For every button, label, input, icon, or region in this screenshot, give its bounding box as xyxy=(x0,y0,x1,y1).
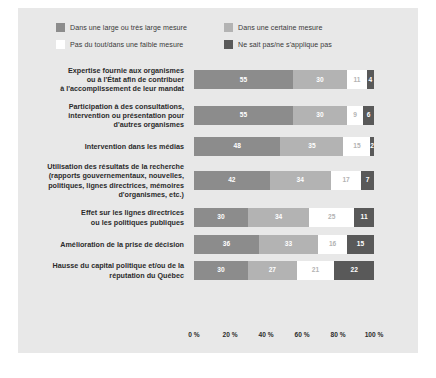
chart-row-label-line: d'autres organismes xyxy=(114,120,184,129)
chart-row-label-line: intervention ou présentation pour xyxy=(68,111,184,120)
bar-segment[interactable]: 30 xyxy=(293,70,347,89)
bar-segment-value: 42 xyxy=(228,177,235,184)
bar-segment-value: 7 xyxy=(366,177,370,184)
bar-segment-value: 30 xyxy=(316,112,323,119)
legend-swatch-icon xyxy=(56,23,65,32)
chart-row-label: Participation à des consultations,interv… xyxy=(18,102,194,130)
chart-row: Expertise fournie aux organismesou à l'É… xyxy=(18,66,418,94)
chart-row-label: Utilisation des résultats de la recherch… xyxy=(18,162,194,199)
legend-swatch-icon xyxy=(224,23,233,32)
legend-item-dans-une-large-ou-tres-large-mesure[interactable]: Dans une large ou très large mesure xyxy=(56,23,224,32)
x-axis-tick-label: 100 % xyxy=(365,331,384,338)
bar-segment[interactable]: 30 xyxy=(293,106,347,125)
bar-segment[interactable]: 21 xyxy=(297,261,335,280)
bar-segment[interactable]: 16 xyxy=(318,235,347,254)
chart-row-label-line: Intervention dans les médias xyxy=(85,142,184,151)
chart-row: Utilisation des résultats de la recherch… xyxy=(18,162,418,199)
chart-row: Participation à des consultations,interv… xyxy=(18,102,418,130)
bar-segment[interactable]: 27 xyxy=(248,261,297,280)
bar-segment[interactable]: 55 xyxy=(194,70,293,89)
bar-segment-value: 25 xyxy=(328,214,335,221)
chart-row-label-line: d'organismes, etc.) xyxy=(118,190,184,199)
bar-segment-value: 2 xyxy=(370,143,374,150)
bar-segment-value: 15 xyxy=(357,241,364,248)
bar-segment[interactable]: 15 xyxy=(347,235,374,254)
bar-segment-value: 34 xyxy=(275,214,282,221)
bar-segment[interactable]: 11 xyxy=(347,70,367,89)
bar-segment-value: 35 xyxy=(308,143,315,150)
bar-segment-value: 6 xyxy=(367,112,371,119)
x-axis-tick-label: 0 % xyxy=(188,331,199,338)
x-axis-tick-label: 80 % xyxy=(330,331,345,338)
stacked-bar: 30342511 xyxy=(194,208,374,227)
bar-segment-value: 34 xyxy=(297,177,304,184)
legend-item-pas-du-tout-dans-une-faible-mesure[interactable]: Pas du tout/dans une faible mesure xyxy=(56,40,224,49)
bar-segment[interactable]: 11 xyxy=(354,208,374,227)
bar-segment[interactable]: 6 xyxy=(363,106,374,125)
chart-row-label-line: Expertise fournie aux organismes xyxy=(68,66,184,75)
chart-panel: Dans une large ou très large mesure Dans… xyxy=(18,8,418,353)
bar-segment-value: 11 xyxy=(361,214,368,221)
bar-segment-value: 55 xyxy=(240,77,247,84)
legend-item-label: Dans une certaine mesure xyxy=(238,24,322,32)
bar-segment[interactable]: 34 xyxy=(270,171,331,190)
chart-row: Intervention dans les médias4835152 xyxy=(18,137,418,156)
bar-segment[interactable]: 9 xyxy=(347,106,363,125)
chart-row-label-line: politiques, lignes directrices, mémoires xyxy=(48,181,184,190)
chart-row-label: Intervention dans les médias xyxy=(18,142,194,151)
bar-segment-value: 11 xyxy=(353,77,360,84)
bar-segment[interactable]: 55 xyxy=(194,106,293,125)
chart-row: Effet sur les lignes directricesou les p… xyxy=(18,208,418,227)
bar-segment[interactable]: 15 xyxy=(343,137,370,156)
bar-segment[interactable]: 17 xyxy=(331,171,362,190)
bar-segment[interactable]: 2 xyxy=(370,137,374,156)
legend-swatch-icon xyxy=(56,40,65,49)
stacked-bar: 553096 xyxy=(194,106,374,125)
chart-row-label-line: Hausse du capital politique et/ou de la xyxy=(53,261,184,270)
x-axis-tick-label: 60 % xyxy=(294,331,309,338)
bar-segment-value: 30 xyxy=(217,214,224,221)
chart-row-label-line: ou les politiques publiques xyxy=(91,218,184,227)
chart-row-label-line: Utilisation des résultats de la recherch… xyxy=(47,162,184,171)
bar-segment[interactable]: 34 xyxy=(248,208,309,227)
bar-segment[interactable]: 33 xyxy=(259,235,318,254)
stacked-bar-plot: Expertise fournie aux organismesou à l'É… xyxy=(18,66,418,280)
chart-row-label-line: Effet sur les lignes directrices xyxy=(81,208,184,217)
x-axis-tick-label: 40 % xyxy=(258,331,273,338)
legend-item-label: Ne sait pas/ne s'applique pas xyxy=(238,41,332,49)
bar-segment-value: 4 xyxy=(369,77,373,84)
bar-segment[interactable]: 22 xyxy=(334,261,374,280)
chart-row-label-line: ou à l'État afin de contribuer xyxy=(87,75,184,84)
chart-row-label-line: Participation à des consultations, xyxy=(69,102,184,111)
x-axis: 0 %20 %40 %60 %80 %100 % xyxy=(18,330,418,344)
bar-segment[interactable]: 42 xyxy=(194,171,270,190)
chart-row: Amélioration de la prise de décision3633… xyxy=(18,235,418,254)
chart-row-label-line: (rapports gouvernementaux, nouvelles, xyxy=(49,171,184,180)
bar-segment-value: 48 xyxy=(234,143,241,150)
chart-row-label-line: Amélioration de la prise de décision xyxy=(60,240,184,249)
bar-segment[interactable]: 25 xyxy=(309,208,354,227)
legend-item-label: Pas du tout/dans une faible mesure xyxy=(70,41,183,49)
chart-legend: Dans une large ou très large mesure Dans… xyxy=(56,19,386,53)
bar-segment[interactable]: 35 xyxy=(280,137,343,156)
stacked-bar: 30272122 xyxy=(194,261,374,280)
bar-segment-value: 22 xyxy=(351,267,358,274)
legend-item-ne-sait-pas-ne-sapplique-pas[interactable]: Ne sait pas/ne s'applique pas xyxy=(224,40,386,49)
stacked-bar: 4835152 xyxy=(194,137,374,156)
bar-segment-value: 30 xyxy=(217,267,224,274)
stacked-bar: 5530114 xyxy=(194,70,374,89)
bar-segment-value: 17 xyxy=(342,177,349,184)
legend-item-dans-une-certaine-mesure[interactable]: Dans une certaine mesure xyxy=(224,23,386,32)
x-axis-tick-label: 20 % xyxy=(222,331,237,338)
bar-segment[interactable]: 7 xyxy=(361,171,374,190)
chart-row: Hausse du capital politique et/ou de lar… xyxy=(18,261,418,280)
bar-segment[interactable]: 4 xyxy=(367,70,374,89)
x-axis-ticks: 0 %20 %40 %60 %80 %100 % xyxy=(194,330,374,344)
bar-segment[interactable]: 30 xyxy=(194,261,248,280)
chart-row-label-line: à l'accomplissement de leur mandat xyxy=(60,84,184,93)
bar-segment[interactable]: 30 xyxy=(194,208,248,227)
bar-segment-value: 36 xyxy=(223,241,230,248)
bar-segment[interactable]: 36 xyxy=(194,235,259,254)
chart-row-label: Hausse du capital politique et/ou de lar… xyxy=(18,261,194,279)
bar-segment[interactable]: 48 xyxy=(194,137,280,156)
